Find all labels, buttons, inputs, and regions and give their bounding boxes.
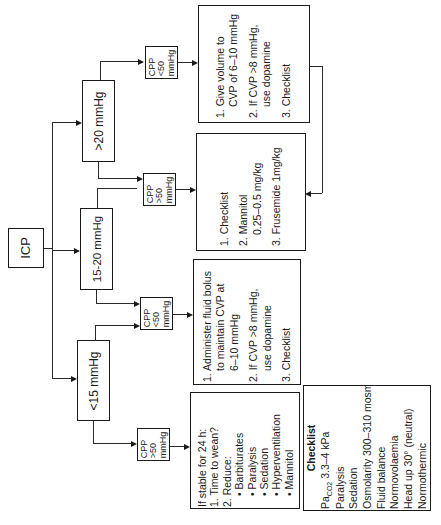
action-step: 2. If CVP >8 mmHg,: [247, 262, 260, 382]
connector: [100, 61, 101, 80]
action-step: 1. Time to wean?: [208, 395, 220, 507]
cpp-unit: mmHg: [158, 431, 167, 458]
checklist-item-paco2: PaCO2 3.3–4 kPa: [318, 387, 333, 509]
cpp-unit: mmHg: [166, 49, 175, 76]
checklist-item: Paralysis: [334, 387, 348, 509]
action-mannitol-box: 1. Checklist 2. Mannitol 0.25–0.5 mg/kg …: [196, 133, 306, 251]
action-wean-box: If stable for 24 h: 1. Time to wean? 2. …: [190, 392, 300, 509]
reduce-item: • Barbiturates: [233, 395, 245, 507]
cpp-gt20-low-box: CPP <50 mmHg: [145, 46, 178, 79]
connector: [95, 325, 96, 340]
action-step: 2. Reduce:: [220, 395, 232, 507]
connector: [97, 188, 98, 208]
connector: [97, 188, 137, 189]
branch-15to20-label: 15-20 mmHg: [89, 216, 103, 282]
action-step-cont: use dopamine: [261, 10, 274, 118]
arrow-icon: [138, 59, 144, 65]
cpp-threshold: <50: [157, 49, 166, 76]
checklist-item: Head up 30° (neutral): [402, 387, 416, 509]
checklist-item: Normothermic: [416, 387, 430, 509]
action-step-cont: CVP of 6–10 mmHg: [228, 10, 241, 118]
cpp-threshold: <50: [152, 300, 161, 327]
reduce-item: • Hyperventilation: [270, 395, 282, 507]
action-step: 2. If CVP >8 mmHg,: [247, 10, 260, 118]
branch-gt20-label: >20 mmHg: [91, 91, 106, 150]
action-step: 3. Checklist: [280, 262, 293, 382]
connector: [96, 303, 134, 304]
action-step: 1. Administer fluid bolus: [201, 262, 214, 382]
reduce-item: • Mannitol: [282, 395, 294, 507]
reduce-item: • Sedation: [257, 395, 269, 507]
checklist-item: Normovolaemia: [388, 387, 402, 509]
checklist-item: Osmolarity 300–310 mosm/l: [361, 387, 375, 509]
connector-return: [322, 66, 323, 193]
reduce-item: • Paralysis: [245, 395, 257, 507]
connector-trunk-gt20: [52, 122, 78, 123]
action-step-cont: 0.25–0.5 mg/kg: [251, 138, 264, 246]
cpp-lt15-high-box: CPP >50 mmHg: [137, 428, 170, 461]
action-step: 3. Checklist: [280, 10, 293, 118]
branch-gt20-box: >20 mmHg: [82, 80, 115, 162]
branch-15to20-box: 15-20 mmHg: [80, 208, 113, 290]
action-step-cont: use dopamine: [260, 262, 273, 382]
connector: [178, 62, 192, 63]
action-fluid-bolus-box: 1. Administer fluid bolus to maintain CV…: [193, 259, 301, 385]
connector: [95, 325, 134, 326]
checklist-title: Checklist: [305, 387, 319, 509]
cpp-unit: mmHg: [164, 176, 173, 203]
connector-trunk-15to20: [52, 250, 76, 251]
action-give-volume-box: 1. Give volume to CVP of 6–10 mmHg 2. If…: [198, 5, 310, 123]
connector-trunk-lt15: [52, 378, 72, 379]
connector-icp-trunk: [44, 248, 52, 249]
connector: [176, 189, 190, 190]
action-step: 3. Frusemide 1mg/kg: [270, 138, 283, 246]
connector: [98, 162, 99, 178]
connector-return: [311, 193, 322, 194]
icp-label: ICP: [18, 237, 34, 259]
action-intro: If stable for 24 h:: [196, 395, 208, 507]
cpp-15to20-high-box: CPP >50 mmHg: [143, 173, 176, 206]
icp-box: ICP: [8, 228, 44, 268]
action-step-cont: 6–10 mmHg: [228, 262, 241, 382]
cpp-threshold: >50: [149, 431, 158, 458]
branch-lt15-box: <15 mmHg: [77, 340, 110, 421]
connector: [173, 314, 187, 315]
action-step: 1. Checklist: [218, 138, 231, 246]
connector: [170, 446, 184, 447]
action-step: 2. Mannitol: [238, 138, 251, 246]
checklist-panel: Checklist PaCO2 3.3–4 kPa Paralysis Seda…: [303, 385, 431, 511]
cpp-threshold: >50: [155, 176, 164, 203]
connector: [96, 290, 97, 303]
action-step-cont: to maintain CVP at: [214, 262, 227, 382]
cpp-low-box: CPP <50 mmHg: [140, 297, 173, 330]
connector: [93, 443, 131, 444]
connector: [98, 178, 137, 179]
branch-lt15-label: <15 mmHg: [86, 351, 101, 410]
connector-return: [310, 66, 322, 67]
connector: [100, 61, 138, 62]
connector: [93, 420, 94, 443]
checklist-item: Sedation: [347, 387, 361, 509]
cpp-unit: mmHg: [161, 300, 170, 327]
checklist-item: Fluid balance: [375, 387, 389, 509]
action-step: 1. Give volume to: [214, 10, 227, 118]
